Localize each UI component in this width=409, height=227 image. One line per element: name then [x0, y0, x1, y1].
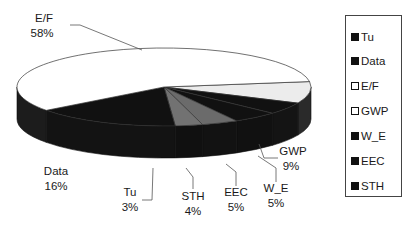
label-we-pct: 5% — [268, 197, 285, 209]
label-tu-name: Tu — [124, 186, 137, 198]
pie-side-tu — [175, 125, 202, 158]
leader-line-we — [258, 156, 276, 182]
legend-swatch-we — [351, 132, 359, 140]
label-tu-pct: 3% — [122, 201, 139, 213]
leader-line-tu — [142, 168, 153, 200]
label-ef-name: E/F — [35, 12, 53, 24]
legend: Tu Data E/F GWP W_E EEC STH — [345, 15, 402, 197]
label-gwp-name: GWP — [279, 145, 307, 157]
legend-item-eec: EEC — [351, 154, 385, 168]
legend-label-sth: STH — [361, 180, 384, 192]
pie-side-sth — [203, 121, 237, 157]
legend-item-data: Data — [351, 54, 385, 68]
legend-item-we: W_E — [351, 129, 386, 143]
legend-item-tu: Tu — [351, 30, 374, 44]
label-sth-pct: 4% — [185, 205, 202, 217]
label-data-name: Data — [44, 165, 69, 177]
label-data-pct: 16% — [44, 180, 67, 192]
legend-label-data: Data — [361, 55, 385, 67]
legend-label-gwp: GWP — [361, 105, 388, 117]
label-sth-name: STH — [182, 190, 205, 202]
pie-top-faces — [17, 48, 311, 126]
legend-label-we: W_E — [361, 130, 386, 142]
label-eec-name: EEC — [224, 186, 248, 198]
legend-swatch-tu — [351, 33, 359, 41]
leader-line-eec — [226, 164, 236, 186]
legend-label-tu: Tu — [361, 31, 374, 43]
leader-line-sth — [186, 168, 193, 189]
legend-swatch-data — [351, 57, 359, 65]
leader-line-ef — [70, 25, 142, 50]
label-ef-pct: 58% — [30, 27, 53, 39]
label-gwp-pct: 9% — [283, 160, 300, 172]
legend-item-sth: STH — [351, 179, 384, 193]
legend-label-eec: EEC — [361, 155, 385, 167]
legend-swatch-eec — [351, 157, 359, 165]
legend-label-ef: E/F — [361, 80, 379, 92]
legend-swatch-gwp — [351, 107, 359, 115]
legend-item-gwp: GWP — [351, 104, 388, 118]
label-eec-pct: 5% — [228, 201, 245, 213]
label-we-name: W_E — [264, 182, 289, 194]
legend-swatch-ef — [351, 82, 359, 90]
legend-item-ef: E/F — [351, 79, 379, 93]
legend-swatch-sth — [351, 182, 359, 190]
